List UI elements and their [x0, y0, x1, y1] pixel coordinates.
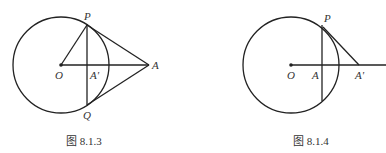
- center-point-o: [59, 63, 63, 67]
- label-a-prime: A': [89, 69, 100, 81]
- figure-caption: 图 8.1.3: [66, 135, 102, 147]
- label-p: P: [83, 10, 91, 22]
- tangent-pa: [87, 25, 149, 65]
- segment-op: [61, 25, 87, 65]
- label-a: A: [151, 59, 159, 71]
- label-p: P: [323, 12, 331, 24]
- figure-8-1-4: P O A A' 图 8.1.4: [243, 12, 386, 147]
- label-a: A: [311, 69, 319, 81]
- center-point-o: [289, 63, 293, 67]
- figure-caption: 图 8.1.4: [293, 135, 329, 147]
- figure-8-1-3: P O A' A Q 图 8.1.3: [13, 10, 159, 147]
- label-o: O: [287, 69, 295, 81]
- tangent-pa-prime: [323, 27, 359, 65]
- diagram-canvas: P O A' A Q 图 8.1.3 P O A A' 图 8.1.4: [0, 0, 386, 153]
- label-a-prime: A': [354, 69, 365, 81]
- label-q: Q: [83, 109, 91, 121]
- label-o: O: [55, 69, 63, 81]
